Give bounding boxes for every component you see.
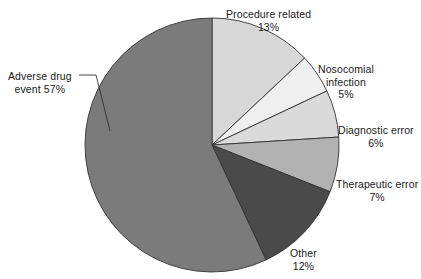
slice-label-procedure-related: Procedure related 13% [226, 8, 311, 33]
slice-label-adverse-drug-event: Adverse drug event 57% [8, 70, 72, 95]
slice-label-procedure-related-name: Procedure related [226, 8, 311, 21]
pie-slices-group [85, 18, 339, 272]
slice-label-diagnostic-error-value: 6% [338, 137, 414, 150]
slice-label-nosocomial-infection-value: 5% [318, 88, 374, 101]
slice-label-other: Other 12% [290, 247, 317, 272]
slice-label-nosocomial-infection: Nosocomial infection 5% [318, 63, 374, 101]
slice-label-adverse-drug-event-value: event 57% [8, 83, 72, 96]
slice-label-other-value: 12% [290, 260, 317, 273]
slice-label-therapeutic-error: Therapeutic error 7% [336, 178, 418, 203]
slice-label-other-name: Other [290, 247, 317, 260]
slice-label-diagnostic-error-name: Diagnostic error [338, 124, 414, 137]
slice-label-adverse-drug-event-name: Adverse drug [8, 70, 72, 83]
slice-label-nosocomial-infection-name-2: infection [318, 76, 374, 89]
slice-label-diagnostic-error: Diagnostic error 6% [338, 124, 414, 149]
pie-chart-figure: Procedure related 13% Nosocomial infecti… [0, 0, 421, 279]
slice-label-nosocomial-infection-name-1: Nosocomial [318, 63, 374, 76]
slice-label-therapeutic-error-name: Therapeutic error [336, 178, 418, 191]
slice-label-procedure-related-value: 13% [226, 21, 311, 34]
slice-label-therapeutic-error-value: 7% [336, 191, 418, 204]
